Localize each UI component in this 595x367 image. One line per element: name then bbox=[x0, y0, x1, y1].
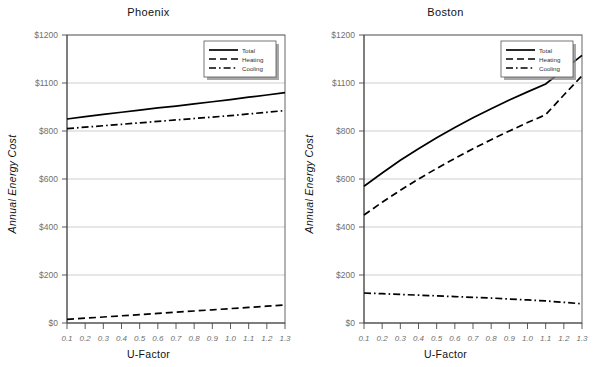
y-tick-label-0: $0 bbox=[49, 318, 59, 328]
x-tick-labels-boston: 0.1 0.2 0.3 0.4 0.5 0.6 0.7 0.8 0.9 1.0 … bbox=[358, 334, 588, 343]
x-tick-label-0.2: 0.2 bbox=[377, 334, 389, 343]
y-tick-label-200: $200 bbox=[39, 270, 58, 280]
x-tickmarks-boston bbox=[364, 323, 582, 329]
x-tick-label-0.1: 0.1 bbox=[61, 334, 72, 343]
energy-cost-figure: Phoenix Annual Energy Cost U-Factor bbox=[0, 0, 595, 367]
y-tick-label-400: $400 bbox=[39, 222, 58, 232]
x-tick-label-0.5: 0.5 bbox=[431, 334, 443, 343]
x-tick-label-1.1: 1.1 bbox=[540, 334, 551, 343]
x-tick-label-0.9: 0.9 bbox=[504, 334, 516, 343]
y-tick-label-200: $200 bbox=[336, 270, 355, 280]
series-line-heating bbox=[67, 305, 285, 319]
x-tick-label-1.3: 1.3 bbox=[576, 334, 588, 343]
x-tick-label-1.3: 1.3 bbox=[279, 334, 291, 343]
series-line-total bbox=[67, 93, 285, 119]
x-tick-label-1.1: 1.1 bbox=[243, 334, 254, 343]
series-line-cooling bbox=[364, 293, 582, 304]
legend-label-cooling: Cooling bbox=[242, 65, 264, 72]
y-tick-label-400: $400 bbox=[336, 222, 355, 232]
x-tick-label-1.0: 1.0 bbox=[522, 334, 534, 343]
x-tick-label-1.2: 1.2 bbox=[558, 334, 570, 343]
x-tick-label-1.2: 1.2 bbox=[261, 334, 273, 343]
legend-label-total: Total bbox=[539, 47, 552, 54]
x-tick-label-0.7: 0.7 bbox=[467, 334, 479, 343]
x-tick-label-0.4: 0.4 bbox=[116, 334, 128, 343]
y-tick-label-600: $600 bbox=[39, 174, 58, 184]
legend-phoenix: Total Heating Cooling bbox=[204, 41, 279, 80]
legend-label-heating: Heating bbox=[242, 56, 264, 63]
x-tickmarks-phoenix bbox=[67, 323, 285, 329]
legend-boston: Total Heating Cooling bbox=[501, 41, 576, 80]
x-tick-label-0.3: 0.3 bbox=[395, 334, 407, 343]
chart-panel-boston: Boston Annual Energy Cost U-Factor bbox=[297, 0, 594, 367]
plot-svg-boston: $1200 $1100 $800 $600 $400 $200 $0 bbox=[297, 0, 594, 367]
chart-panel-phoenix: Phoenix Annual Energy Cost U-Factor bbox=[0, 0, 297, 367]
legend-label-heating: Heating bbox=[539, 56, 561, 63]
series-line-heating bbox=[364, 76, 582, 215]
x-tick-label-0.5: 0.5 bbox=[134, 334, 146, 343]
x-axis-boston: 0.1 0.2 0.3 0.4 0.5 0.6 0.7 0.8 0.9 1.0 … bbox=[358, 323, 588, 343]
y-tick-label-800: $800 bbox=[336, 126, 355, 136]
series-group-phoenix bbox=[67, 93, 285, 320]
x-tick-label-0.1: 0.1 bbox=[358, 334, 369, 343]
series-line-cooling bbox=[67, 111, 285, 129]
y-tick-label-0: $0 bbox=[346, 318, 356, 328]
y-tick-label-800: $800 bbox=[39, 126, 58, 136]
legend-label-cooling: Cooling bbox=[539, 65, 561, 72]
x-tick-label-0.4: 0.4 bbox=[413, 334, 425, 343]
plot-area-boston: $1200 $1100 $800 $600 $400 $200 $0 bbox=[297, 0, 594, 367]
x-tick-labels-phoenix: 0.1 0.2 0.3 0.4 0.5 0.6 0.7 0.8 0.9 1.0 … bbox=[61, 334, 291, 343]
series-group-boston bbox=[364, 55, 582, 303]
x-tick-label-0.8: 0.8 bbox=[189, 334, 201, 343]
x-tick-label-0.3: 0.3 bbox=[98, 334, 110, 343]
x-tick-label-0.8: 0.8 bbox=[486, 334, 498, 343]
x-tick-label-0.2: 0.2 bbox=[80, 334, 92, 343]
x-tick-label-0.6: 0.6 bbox=[152, 334, 164, 343]
x-tick-label-0.7: 0.7 bbox=[170, 334, 182, 343]
x-tick-label-1.0: 1.0 bbox=[225, 334, 237, 343]
y-tick-label-1100: $1100 bbox=[35, 78, 58, 88]
y-tick-label-1200: $1200 bbox=[34, 30, 58, 40]
plot-area-phoenix: $1200 $1100 $800 $600 $400 $200 $0 bbox=[0, 0, 297, 367]
y-tick-label-1100: $1100 bbox=[332, 78, 355, 88]
x-axis-phoenix: 0.1 0.2 0.3 0.4 0.5 0.6 0.7 0.8 0.9 1.0 … bbox=[61, 323, 291, 343]
y-axis-boston: $1200 $1100 $800 $600 $400 $200 $0 bbox=[331, 30, 364, 328]
x-tick-label-0.6: 0.6 bbox=[449, 334, 461, 343]
plot-svg-phoenix: $1200 $1100 $800 $600 $400 $200 $0 bbox=[0, 0, 297, 367]
y-tick-label-600: $600 bbox=[336, 174, 355, 184]
y-axis-phoenix: $1200 $1100 $800 $600 $400 $200 $0 bbox=[34, 30, 67, 328]
legend-label-total: Total bbox=[242, 47, 255, 54]
y-tick-label-1200: $1200 bbox=[331, 30, 355, 40]
x-tick-label-0.9: 0.9 bbox=[207, 334, 219, 343]
